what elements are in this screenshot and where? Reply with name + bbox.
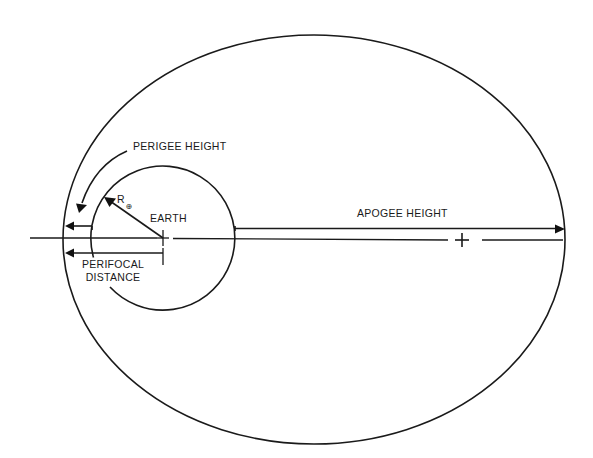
perifocal-distance-label-line1: PERIFOCAL: [82, 258, 144, 270]
orbit-diagram: R ⊕ EARTH PERIGEE HEIGHT PERIFOCAL DISTA…: [0, 0, 593, 458]
major-axis: [30, 238, 563, 240]
earth-radius-subscript: ⊕: [126, 202, 133, 211]
perigee-height-arrow: [65, 222, 92, 231]
earth-label: EARTH: [150, 212, 187, 224]
apogee-height-arrow: [235, 225, 565, 234]
earth-radius-label: R: [117, 193, 125, 205]
perifocal-distance-label-line2: DISTANCE: [86, 271, 141, 283]
perifocal-distance-arrow: [65, 249, 163, 258]
apogee-height-label: APOGEE HEIGHT: [357, 207, 448, 219]
empty-focus-cross-icon: [455, 233, 469, 247]
perigee-height-label: PERIGEE HEIGHT: [133, 140, 227, 152]
